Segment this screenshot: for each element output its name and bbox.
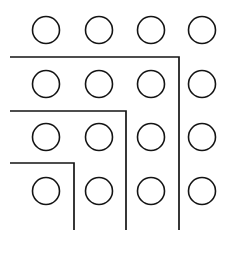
figure-root — [0, 0, 232, 253]
figure-canvas — [0, 0, 232, 253]
